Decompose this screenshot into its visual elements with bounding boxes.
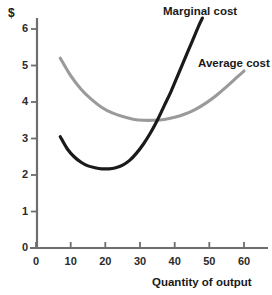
x-tick-label-30: 30 — [128, 256, 152, 267]
average-cost-label: Average cost — [198, 58, 270, 70]
y-tick-label-2: 2 — [12, 169, 28, 180]
x-axis-title: Quantity of output — [152, 277, 252, 289]
marginal-cost-label: Marginal cost — [163, 6, 237, 18]
cost-curves-chart: $ 6 5 4 3 2 1 0 0 10 20 30 40 50 60 Quan… — [0, 0, 272, 295]
y-tick-label-4: 4 — [12, 96, 28, 107]
y-tick-label-0: 0 — [12, 242, 28, 253]
y-axis-unit-label: $ — [8, 7, 15, 19]
x-tick-label-50: 50 — [197, 256, 221, 267]
x-tick-label-60: 60 — [232, 256, 256, 267]
y-tick-label-3: 3 — [12, 133, 28, 144]
marginal-cost-curve — [60, 18, 202, 169]
y-tick-label-5: 5 — [12, 60, 28, 71]
y-tick-label-1: 1 — [12, 206, 28, 217]
x-tick-label-10: 10 — [59, 256, 83, 267]
y-tick-label-6: 6 — [12, 23, 28, 34]
x-tick-label-0: 0 — [24, 256, 48, 267]
x-tick-label-40: 40 — [163, 256, 187, 267]
x-tick-label-20: 20 — [93, 256, 117, 267]
chart-plot-area — [0, 0, 272, 295]
